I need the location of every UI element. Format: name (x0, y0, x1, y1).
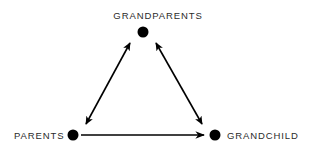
edge-grandparents-grandchild (156, 43, 202, 124)
node-label-grandchild: GRANDCHILD (227, 131, 299, 141)
edge-parents-grandparents (86, 43, 130, 124)
node-label-grandparents: GRANDPARENTS (4, 11, 312, 21)
node-parents[interactable] (68, 130, 79, 141)
node-grandchild[interactable] (210, 130, 221, 141)
node-grandparents[interactable] (138, 27, 149, 38)
diagram-canvas: GRANDPARENTS PARENTS GRANDCHILD (0, 0, 312, 154)
node-label-parents: PARENTS (14, 131, 64, 141)
